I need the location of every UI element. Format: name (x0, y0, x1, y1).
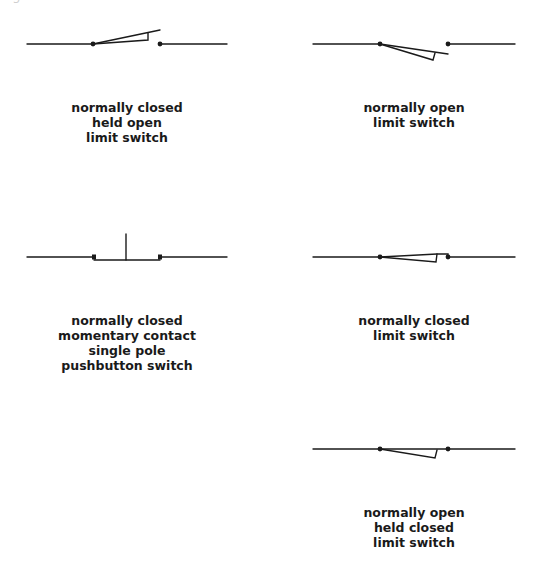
left-terminal (92, 255, 96, 260)
caption-line: pushbutton switch (7, 358, 247, 373)
caption-line: normally closed (7, 100, 247, 115)
pivot-terminal-dot (378, 42, 383, 47)
no-held-closed-limit-switch-symbol (313, 447, 515, 458)
contact-terminal-dot (158, 42, 163, 47)
caption-line: held open (7, 115, 247, 130)
limit-actuator (380, 449, 437, 458)
caption-line: limit switch (7, 130, 247, 145)
caption-line: momentary contact (7, 328, 247, 343)
switch-blade (380, 44, 448, 54)
caption-line: normally open (294, 100, 534, 115)
pivot-terminal-dot (378, 255, 383, 260)
caption-line: normally closed (7, 313, 247, 328)
nc-held-open-limit-switch-symbol (27, 30, 227, 46)
caption-line: limit switch (294, 535, 534, 550)
contact-terminal-dot (446, 255, 451, 260)
caption-line: limit switch (294, 328, 534, 343)
caption-nc-momentary-pushbutton: normally closed momentary contact single… (7, 313, 247, 373)
pivot-terminal-dot (378, 447, 383, 452)
no-limit-switch-symbol (313, 42, 515, 60)
contact-terminal-dot (446, 447, 451, 452)
caption-no-held-closed-limit-switch: normally open held closed limit switch (294, 505, 534, 550)
caption-line: limit switch (294, 115, 534, 130)
pivot-terminal-dot (91, 42, 96, 47)
nc-momentary-pushbutton-symbol (27, 234, 227, 260)
caption-no-limit-switch: normally open limit switch (294, 100, 534, 130)
switch-symbols-diagram (0, 0, 538, 565)
caption-line: single pole (7, 343, 247, 358)
nc-limit-switch-symbol (313, 254, 515, 262)
limit-actuator (380, 44, 435, 60)
caption-line: normally open (294, 505, 534, 520)
caption-line: normally closed (294, 313, 534, 328)
contact-terminal-dot (446, 42, 451, 47)
caption-nc-limit-switch: normally closed limit switch (294, 313, 534, 343)
switch-blade (380, 254, 448, 257)
caption-line: held closed (294, 520, 534, 535)
caption-nc-held-open-limit-switch: normally closed held open limit switch (7, 100, 247, 145)
right-terminal (158, 255, 162, 260)
